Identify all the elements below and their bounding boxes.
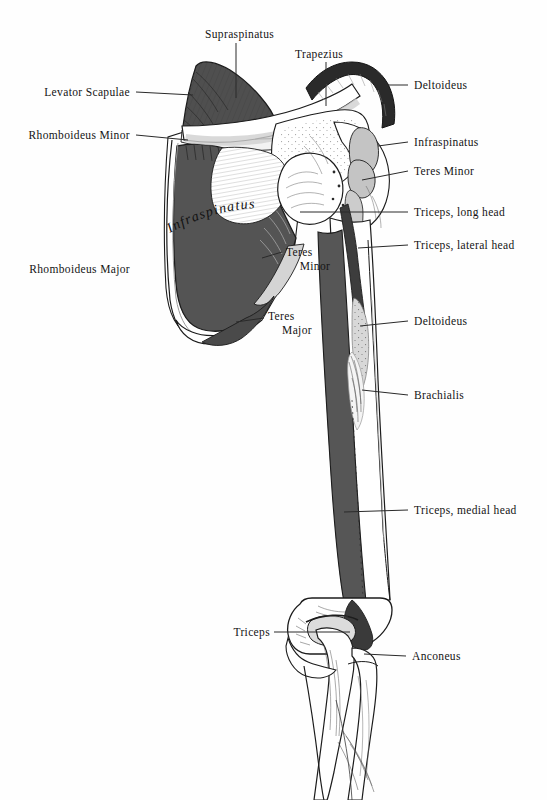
label-rhomboideus-major: Rhomboideus Major xyxy=(0,263,130,276)
label-teres-minor-inner: Teres Minor xyxy=(286,245,344,273)
label-teres-minor-right: Teres Minor xyxy=(414,165,474,178)
label-infraspinatus-right: Infraspinatus xyxy=(414,136,479,149)
leader-levator-scapulae xyxy=(136,92,193,95)
label-deltoideus-mid: Deltoideus xyxy=(414,315,467,328)
forearm-left-edge xyxy=(304,666,324,800)
label-trapezius: Trapezius xyxy=(295,48,343,61)
label-teres-major-inner: Teres Major xyxy=(268,309,326,337)
label-deltoideus-top: Deltoideus xyxy=(414,79,467,92)
label-anconeus: Anconeus xyxy=(412,650,461,663)
label-triceps-bottom: Triceps xyxy=(180,626,270,639)
label-triceps-lateral-head: Triceps, lateral head xyxy=(414,239,515,252)
label-levator-scapulae: Levator Scapulae xyxy=(0,86,130,99)
leader-infraspinatus-right xyxy=(378,142,408,146)
label-teres-minor-inner-line2: Minor xyxy=(286,259,344,273)
anatomical-figure: Infraspinatus xyxy=(0,0,547,800)
label-rhomboideus-minor: Rhomboideus Minor xyxy=(0,129,130,142)
label-supraspinatus: Supraspinatus xyxy=(205,28,274,41)
label-brachialis: Brachialis xyxy=(414,389,464,402)
label-teres-major-inner-line1: Teres xyxy=(268,309,326,323)
elbow-group xyxy=(286,598,392,800)
humeral-head xyxy=(278,153,343,224)
label-teres-major-inner-line2: Major xyxy=(268,323,326,337)
label-triceps-medial-head: Triceps, medial head xyxy=(414,504,517,517)
label-teres-minor-inner-line1: Teres xyxy=(286,245,344,259)
anatomy-illustration: Infraspinatus xyxy=(0,0,547,800)
label-triceps-long-head: Triceps, long head xyxy=(414,206,505,219)
